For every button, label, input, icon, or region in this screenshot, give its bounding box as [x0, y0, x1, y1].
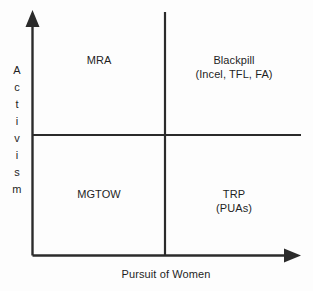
axes-and-dividers	[0, 0, 313, 291]
x-axis-arrowhead-icon	[284, 249, 301, 263]
y-axis-label-letter: i	[16, 113, 19, 130]
y-axis-label-letter: v	[14, 130, 20, 147]
quadrant-label-top-right-line1: Blackpill	[168, 54, 300, 68]
quadrant-label-bottom-right-line2: (PUAs)	[168, 202, 300, 216]
x-axis-label: Pursuit of Women	[32, 268, 300, 280]
quadrant-label-bottom-right-line1: TRP	[168, 188, 300, 202]
y-axis-label: A c t i v i s m	[8, 62, 26, 198]
quadrant-label-bottom-left: MGTOW	[36, 188, 162, 202]
y-axis-label-letter: m	[12, 181, 21, 198]
quadrant-label-bottom-left-line1: MGTOW	[36, 188, 162, 202]
y-axis-arrowhead-icon	[26, 10, 40, 27]
quadrant-label-top-right: Blackpill (Incel, TFL, FA)	[168, 54, 300, 81]
quadrant-label-top-left: MRA	[36, 54, 162, 68]
quadrant-label-bottom-right: TRP (PUAs)	[168, 188, 300, 215]
y-axis-label-letter: A	[13, 62, 20, 79]
y-axis-label-letter: s	[14, 164, 20, 181]
quadrant-label-top-left-line1: MRA	[36, 54, 162, 68]
y-axis-label-letter: t	[15, 96, 18, 113]
quadrant-diagram: MRA Blackpill (Incel, TFL, FA) MGTOW TRP…	[0, 0, 313, 291]
y-axis-label-letter: i	[16, 147, 19, 164]
quadrant-label-top-right-line2: (Incel, TFL, FA)	[168, 68, 300, 82]
y-axis-label-letter: c	[14, 79, 20, 96]
